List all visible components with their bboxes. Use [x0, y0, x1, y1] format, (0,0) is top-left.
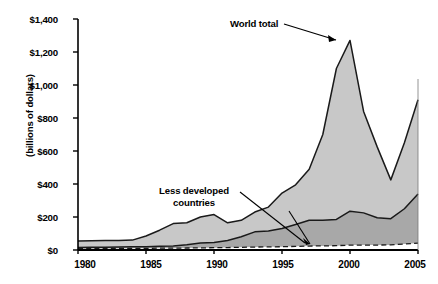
leader-line-world-total — [284, 24, 336, 40]
leader-arrow-world-total — [328, 35, 336, 42]
chart-figure: (billions of dollars) $1,400 $1,200 $1,0… — [0, 0, 438, 284]
plot-area — [0, 0, 438, 284]
